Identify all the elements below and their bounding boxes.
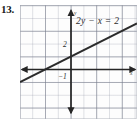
x-tick-label-neg1: −1: [58, 73, 67, 81]
y-tick-label-2: 2: [63, 41, 67, 49]
problem-number: 13.: [1, 4, 14, 15]
y-axis-label: y: [74, 11, 76, 17]
exercise-figure: 13. 2y − x = 2 2 −1 y x: [0, 0, 138, 125]
x-axis-label: x: [130, 71, 132, 77]
equation-annotation: 2y − x = 2: [76, 17, 119, 27]
graph-frame: 2y − x = 2 2 −1 y x: [20, 5, 137, 119]
plotted-line: [20, 23, 137, 82]
